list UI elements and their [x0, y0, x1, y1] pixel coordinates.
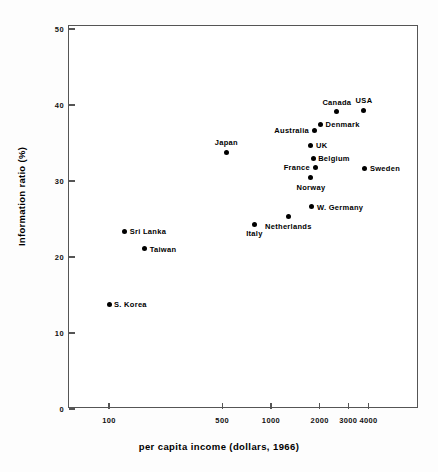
y-tick-mark	[69, 408, 75, 409]
data-point	[311, 156, 316, 161]
data-point	[362, 166, 367, 171]
data-point	[107, 302, 112, 307]
y-tick-label: 30	[42, 177, 64, 186]
x-tick-label: 500	[202, 416, 242, 425]
x-axis-title: per capita income (dollars, 1966)	[0, 441, 438, 452]
y-tick-mark	[69, 256, 75, 257]
y-tick-label: 20	[42, 253, 64, 262]
data-point-label: Norway	[297, 183, 326, 192]
plot-area: 01020304050 1005001000200030004000 S. Ko…	[68, 25, 418, 408]
data-point-label: Canada	[322, 98, 351, 107]
data-point-label: UK	[316, 141, 327, 150]
data-point-label: Netherlands	[265, 222, 312, 231]
x-tick-label: 100	[89, 416, 129, 425]
y-tick-mark	[69, 104, 75, 105]
data-point-label: Japan	[215, 138, 238, 147]
data-point	[312, 128, 317, 133]
data-point-label: S. Korea	[114, 300, 147, 309]
data-point	[309, 204, 314, 209]
data-point-label: Taiwan	[150, 244, 177, 253]
data-point-label: Denmark	[325, 120, 359, 129]
data-point-label: USA	[356, 96, 373, 105]
data-point	[122, 229, 127, 234]
x-tick-mark	[368, 403, 369, 409]
data-point	[313, 165, 318, 170]
y-tick-label: 50	[42, 25, 64, 34]
data-point	[361, 108, 366, 113]
data-point-label: Sweden	[370, 164, 400, 173]
y-tick-label: 10	[42, 329, 64, 338]
y-tick-label: 40	[42, 101, 64, 110]
x-tick-mark	[319, 403, 320, 409]
data-point-label: Sri Lanka	[130, 227, 166, 236]
data-point	[224, 150, 229, 155]
data-point	[318, 122, 323, 127]
data-point	[252, 222, 257, 227]
x-tick-mark	[348, 403, 349, 409]
data-point-label: France	[284, 163, 310, 172]
x-tick-mark	[270, 403, 271, 409]
data-point	[142, 246, 147, 251]
scatter-plot-figure: 01020304050 1005001000200030004000 S. Ko…	[0, 0, 438, 472]
x-tick-mark	[108, 403, 109, 409]
x-tick-mark	[222, 403, 223, 409]
y-tick-label: 0	[42, 405, 64, 414]
data-point-label: Australia	[274, 126, 309, 135]
data-point	[308, 143, 313, 148]
data-point	[308, 175, 313, 180]
data-point	[286, 214, 291, 219]
y-tick-mark	[69, 28, 75, 29]
data-point	[334, 109, 339, 114]
y-axis-title: Information ratio (%)	[16, 97, 27, 297]
data-point-label: Belgium	[318, 154, 350, 163]
x-tick-label: 4000	[349, 416, 389, 425]
data-point-label: W. Germany	[317, 202, 363, 211]
x-tick-label: 1000	[251, 416, 291, 425]
y-tick-mark	[69, 332, 75, 333]
data-point-label: Italy	[246, 229, 263, 238]
y-tick-mark	[69, 180, 75, 181]
